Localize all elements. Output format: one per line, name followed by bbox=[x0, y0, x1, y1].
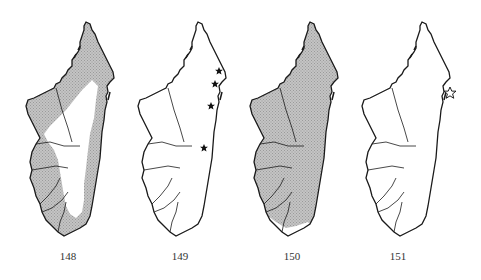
map-151 bbox=[336, 0, 466, 250]
open-star-icon bbox=[444, 87, 456, 98]
map-label-149: 149 bbox=[160, 250, 200, 262]
map-149 bbox=[112, 0, 232, 250]
map-150 bbox=[224, 0, 344, 250]
map-label-150: 150 bbox=[272, 250, 312, 262]
map-148 bbox=[0, 0, 120, 250]
map-label-151: 151 bbox=[378, 250, 418, 262]
map-label-148: 148 bbox=[48, 250, 88, 262]
